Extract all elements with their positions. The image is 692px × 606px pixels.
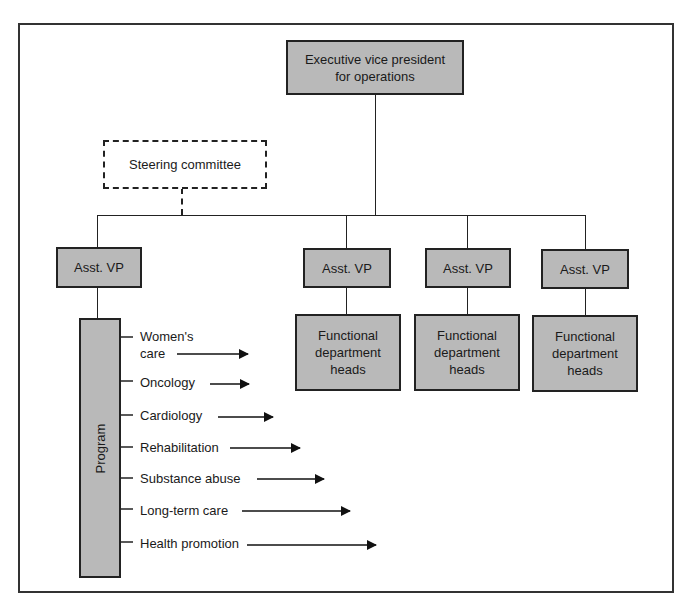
program-item-cardiology: Cardiology	[140, 407, 202, 424]
program-item-rehabilitation: Rehabilitation	[140, 439, 219, 456]
item-line1: Women's	[140, 328, 194, 345]
program-item-oncology: Oncology	[140, 374, 195, 391]
program-item-substance-abuse: Substance abuse	[140, 470, 240, 487]
program-item-long-term-care: Long-term care	[140, 502, 228, 519]
item-line2: care	[140, 345, 194, 362]
program-arrows	[0, 0, 692, 606]
program-item-womens-care: Women's care	[140, 328, 194, 362]
program-item-health-promotion: Health promotion	[140, 535, 239, 552]
